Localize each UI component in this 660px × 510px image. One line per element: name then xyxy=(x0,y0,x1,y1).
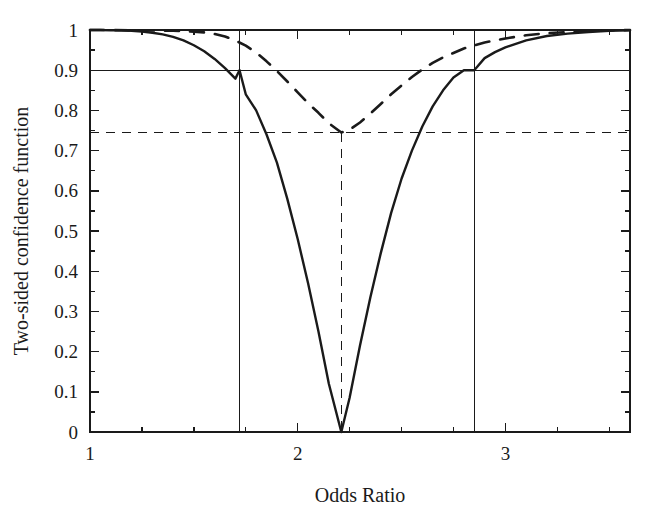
y-axis-title: Two-sided confidence function xyxy=(10,107,32,356)
x-axis-title: Odds Ratio xyxy=(315,484,406,506)
y-tick-label: 1 xyxy=(69,20,79,41)
y-tick-label: 0.5 xyxy=(54,221,78,242)
y-tick-label: 0.4 xyxy=(54,261,78,282)
y-tick-label: 0.2 xyxy=(54,341,78,362)
y-tick-label: 0 xyxy=(69,422,79,443)
x-tick-label: 3 xyxy=(501,443,511,464)
series-solid-confidence-function xyxy=(90,30,630,432)
y-tick-label: 0.1 xyxy=(54,381,78,402)
y-tick-label: 0.9 xyxy=(54,60,78,81)
y-tick-label: 0.7 xyxy=(54,140,78,161)
chart-canvas: 00.10.20.30.40.50.60.70.80.91123Odds Rat… xyxy=(0,0,660,510)
series-dashed-confidence-function xyxy=(90,30,630,133)
y-tick-label: 0.3 xyxy=(54,301,78,322)
plot-frame xyxy=(90,30,630,432)
x-tick-label: 1 xyxy=(85,443,95,464)
confidence-function-figure: 00.10.20.30.40.50.60.70.80.91123Odds Rat… xyxy=(0,0,660,510)
y-tick-label: 0.6 xyxy=(54,180,78,201)
x-tick-label: 2 xyxy=(293,443,303,464)
y-tick-label: 0.8 xyxy=(54,100,78,121)
